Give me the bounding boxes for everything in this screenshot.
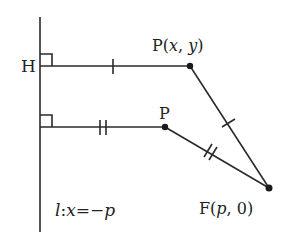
label-P-x: x: [169, 36, 178, 55]
label-directrix: l:x=−p: [55, 202, 115, 219]
label-P-general: P(x, y): [152, 38, 204, 54]
label-F: F(p, 0): [199, 201, 253, 217]
label-eq: =−: [76, 200, 105, 220]
segment-PF-lower: [165, 127, 269, 188]
label-x: x: [66, 200, 76, 220]
segment-PF-upper: [190, 66, 269, 188]
label-p: p: [104, 200, 115, 220]
label-F-name: F(: [199, 199, 216, 218]
label-P: P: [159, 106, 170, 122]
point-P-general: [187, 63, 193, 69]
point-F: [266, 185, 273, 192]
label-P-y: y: [188, 36, 197, 55]
label-H: H: [21, 58, 36, 75]
label-F-rest: , 0): [227, 199, 254, 218]
label-P-comma: ,: [178, 36, 188, 55]
label-P-close: ): [197, 36, 203, 55]
label-P-name: P(: [152, 36, 169, 55]
right-angle-mark-lower: [40, 115, 52, 127]
label-F-p: p: [216, 199, 226, 218]
point-P: [162, 124, 168, 130]
right-angle-mark-H: [40, 54, 52, 66]
